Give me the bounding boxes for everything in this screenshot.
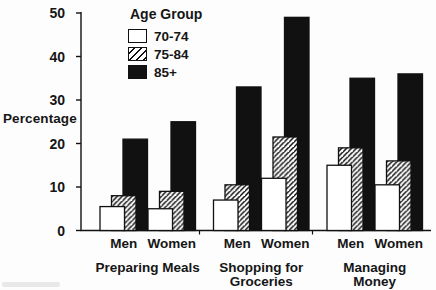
x-group-label: Money <box>353 274 396 289</box>
x-subgroup-label: Women <box>147 236 196 251</box>
y-tick-label: 50 <box>49 5 65 21</box>
x-group-label: Groceries <box>230 274 293 289</box>
bar-chart-figure: Percentage Age Group 70-74 75-84 85+ 010… <box>0 0 436 290</box>
y-tick-label: 20 <box>49 136 65 152</box>
x-subgroup-label: Women <box>261 236 310 251</box>
bar-preparing-women-70-74 <box>148 209 173 231</box>
x-subgroup-label: Men <box>224 236 251 251</box>
chart-plot-area: 01020304050MenWomenPreparing MealsMenWom… <box>0 0 436 290</box>
bar-shopping-women-70-74 <box>262 178 287 230</box>
y-tick-label: 40 <box>49 49 65 65</box>
scan-artifact <box>2 282 60 287</box>
bar-managing-women-70-74 <box>375 185 400 231</box>
x-subgroup-label: Women <box>374 236 423 251</box>
y-tick-label: 0 <box>57 223 65 239</box>
x-group-label: Preparing Meals <box>96 260 200 275</box>
x-subgroup-label: Men <box>337 236 364 251</box>
bar-shopping-men-70-74 <box>214 200 239 230</box>
x-group-label: Managing <box>343 260 406 275</box>
y-tick-label: 30 <box>49 92 65 108</box>
x-group-label: Shopping for <box>219 260 304 275</box>
x-subgroup-label: Men <box>110 236 137 251</box>
y-tick-label: 10 <box>49 179 65 195</box>
bar-preparing-men-70-74 <box>100 207 125 231</box>
bar-managing-men-70-74 <box>327 165 352 230</box>
